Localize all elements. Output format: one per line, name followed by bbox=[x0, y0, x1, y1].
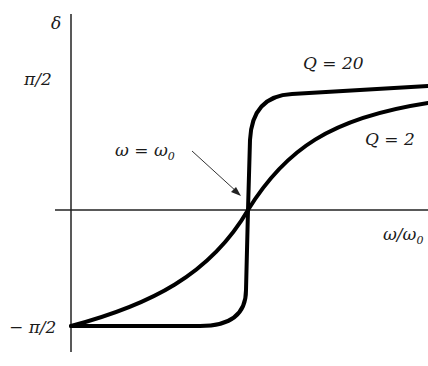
q2-label: Q = 2 bbox=[365, 129, 415, 149]
y-tick-minus-pi-over-2: − π/2 bbox=[9, 317, 56, 337]
annotation-label: ω = ω0 bbox=[115, 140, 175, 163]
y-tick-pi-over-2: π/2 bbox=[23, 69, 52, 89]
y-axis-label: δ bbox=[51, 13, 61, 33]
x-axis-label: ω/ω0 bbox=[383, 224, 423, 247]
q20-label: Q = 20 bbox=[303, 53, 364, 73]
phase-response-diagram: δ π/2 − π/2 Q = 20 Q = 2 ω = ω0 ω/ω0 bbox=[0, 0, 428, 366]
annotation-arrow-line bbox=[192, 151, 237, 192]
